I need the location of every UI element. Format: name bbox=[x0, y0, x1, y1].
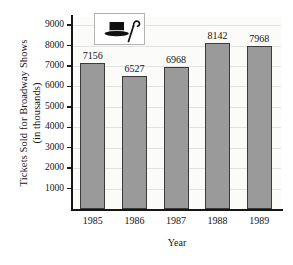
bar-1988 bbox=[205, 43, 230, 209]
y-tick-label: 2000 bbox=[24, 163, 64, 173]
y-tick-label: 6000 bbox=[24, 81, 64, 91]
bar-value-label: 7156 bbox=[68, 51, 118, 61]
bar-1986 bbox=[122, 76, 147, 209]
y-tick-label: 3000 bbox=[24, 143, 64, 153]
y-tick-label: 5000 bbox=[24, 102, 64, 112]
bar-1989 bbox=[247, 46, 272, 209]
bar-value-label: 6527 bbox=[109, 64, 159, 74]
bar-1987 bbox=[164, 67, 189, 209]
y-tick-label: 8000 bbox=[24, 41, 64, 51]
bar-value-label: 7968 bbox=[234, 34, 284, 44]
y-tick-label: 7000 bbox=[24, 61, 64, 71]
bar-1985 bbox=[80, 63, 105, 209]
top-hat-and-cane-icon bbox=[95, 14, 144, 44]
y-tick-label: 9000 bbox=[24, 20, 64, 30]
x-axis-label-1989: 1989 bbox=[234, 216, 284, 226]
y-tick-label: 1000 bbox=[24, 184, 64, 194]
plot-area bbox=[73, 17, 281, 209]
y-axis-line bbox=[71, 15, 73, 211]
legend-box bbox=[94, 13, 145, 45]
x-axis-line bbox=[71, 209, 283, 211]
bar-chart: Tickets Sold for Broadway Shows (in thou… bbox=[0, 0, 293, 265]
bar-value-label: 6968 bbox=[151, 55, 201, 65]
y-tick-label: 4000 bbox=[24, 122, 64, 132]
x-axis-title: Year bbox=[73, 238, 281, 248]
